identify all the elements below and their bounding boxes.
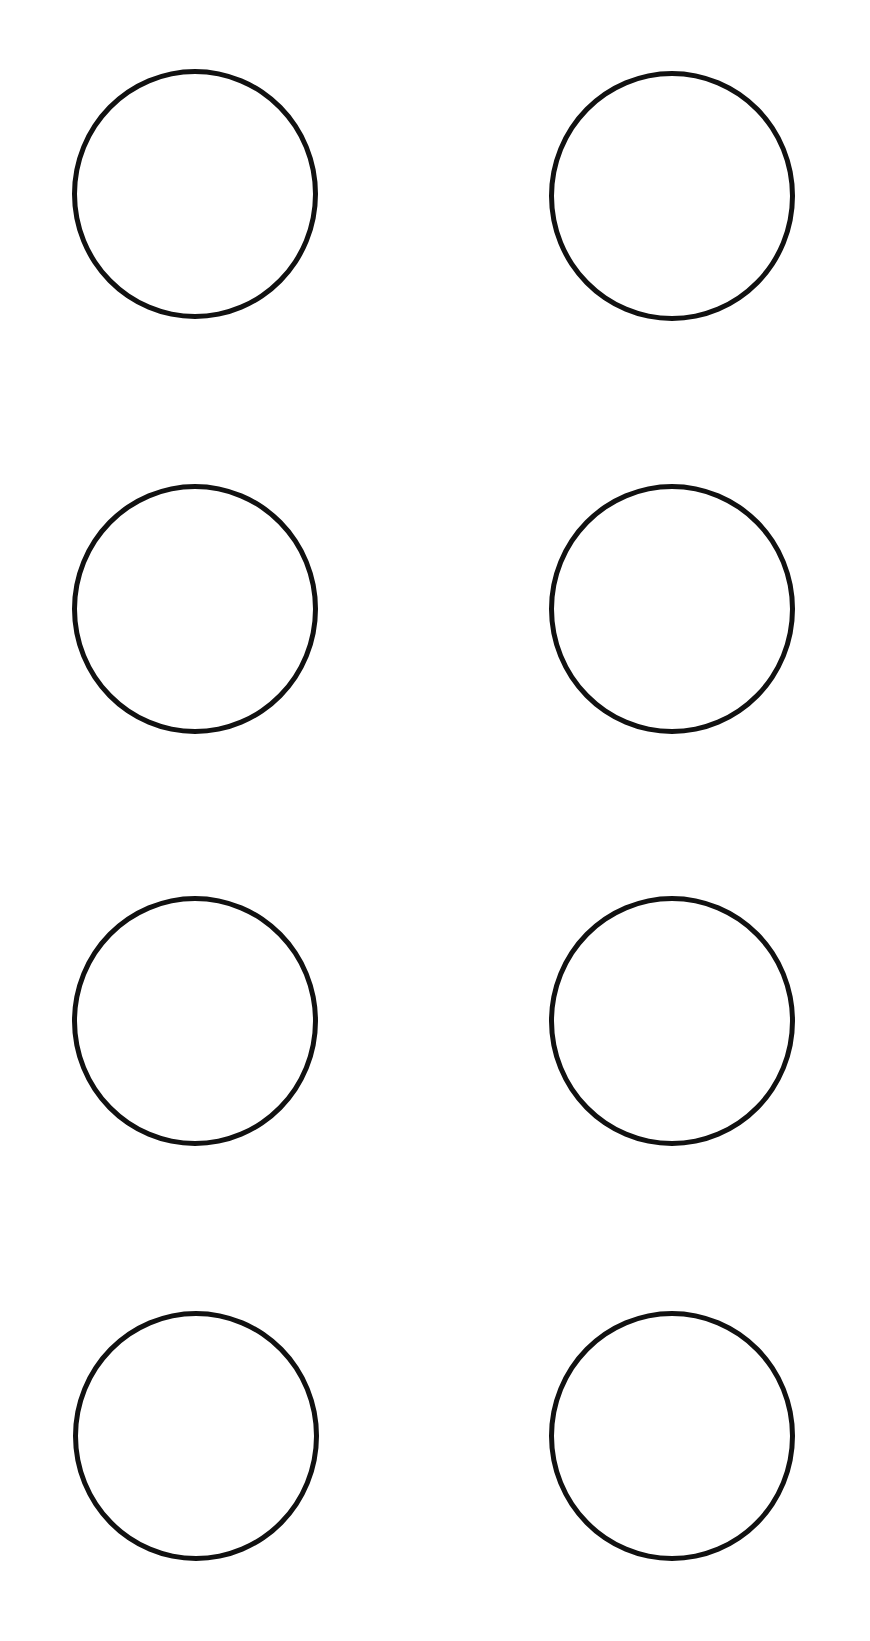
cut-off-title-text — [0, 0, 870, 16]
circle-r3-c1 — [72, 896, 318, 1146]
circle-r1-c1 — [72, 69, 318, 319]
circle-r4-c2 — [549, 1311, 795, 1561]
circle-r2-c1 — [72, 484, 318, 734]
circle-r4-c1 — [73, 1311, 319, 1561]
circle-r1-c2 — [549, 71, 795, 321]
circle-r3-c2 — [549, 896, 795, 1146]
circle-r2-c2 — [549, 484, 795, 734]
